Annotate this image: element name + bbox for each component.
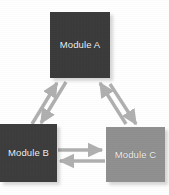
- module-node-a-label: Module A: [60, 40, 100, 50]
- module-node-b[interactable]: Module B: [0, 124, 57, 182]
- module-diagram: Module A Module B Module C: [0, 0, 169, 195]
- module-node-c-label: Module C: [115, 150, 156, 160]
- module-node-a[interactable]: Module A: [50, 12, 110, 78]
- module-node-c[interactable]: Module C: [106, 127, 165, 182]
- module-node-b-label: Module B: [8, 148, 49, 158]
